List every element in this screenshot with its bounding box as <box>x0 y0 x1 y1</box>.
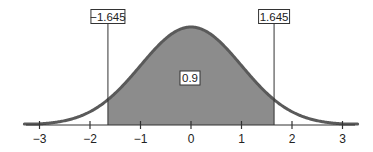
right-critical-value: 1.645 <box>260 11 289 23</box>
x-tick-label: 0 <box>188 132 195 146</box>
left-critical-label: −1.645 <box>90 10 126 24</box>
x-axis-tick-labels: −3−2−10123 <box>33 132 347 146</box>
x-tick-label: 3 <box>339 132 346 146</box>
area-label: 0.9 <box>180 71 200 85</box>
x-tick-label: 1 <box>238 132 245 146</box>
right-critical-label: 1.645 <box>259 10 290 24</box>
x-tick-label: −1 <box>134 132 148 146</box>
left-critical-value: −1.645 <box>90 11 126 23</box>
x-tick-label: 2 <box>289 132 296 146</box>
normal-distribution-chart: −3−2−10123 −1.645 1.645 0.9 <box>0 0 373 152</box>
x-tick-label: −3 <box>33 132 47 146</box>
area-value: 0.9 <box>182 72 198 84</box>
x-tick-label: −2 <box>83 132 97 146</box>
